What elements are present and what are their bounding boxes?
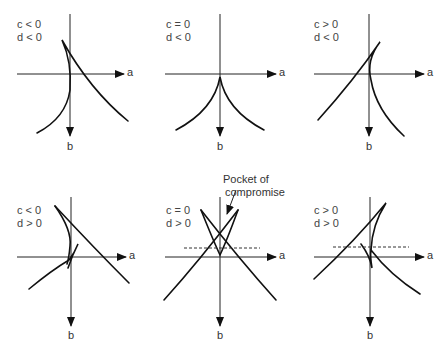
p3-a-label: a: [427, 66, 433, 78]
p6-b-label: b: [367, 329, 373, 341]
p2-b-label: b: [217, 140, 223, 152]
p4-a-label: a: [129, 249, 135, 261]
p2-conditions: c = 0 d < 0: [166, 18, 191, 44]
p1-b-label: b: [67, 140, 73, 152]
p5-a-label: a: [279, 249, 285, 261]
p1-a-label: a: [127, 66, 133, 78]
p6-a-label: a: [427, 249, 433, 261]
p2-a-label: a: [279, 66, 285, 78]
p6-conditions: c > 0 d > 0: [314, 204, 339, 230]
p5-b-label: b: [217, 329, 223, 341]
p3-b-label: b: [366, 140, 372, 152]
p4-b-label: b: [68, 329, 74, 341]
p4-conditions: c < 0 d > 0: [17, 204, 42, 230]
p3-conditions: c > 0 d < 0: [314, 18, 339, 44]
p1-conditions: c < 0 d < 0: [17, 18, 42, 44]
pocket-of-compromise-label: Pocket of compromise: [223, 173, 285, 199]
p5-conditions: c = 0 d > 0: [166, 204, 191, 230]
